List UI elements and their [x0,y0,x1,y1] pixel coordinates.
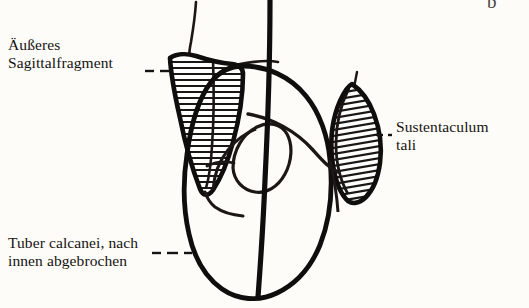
label-line-2: tali [396,136,416,153]
figure-part-letter: b [487,0,497,13]
label-line-1: Sustentaculum [396,118,489,135]
label-line-1: Äußeres [8,36,60,53]
label-sustentaculum-tali: Sustentaculum tali [396,118,489,155]
posterior-facet-line [248,114,338,172]
label-line-2: innen abgebrochen [8,252,127,269]
articular-surface-curve [233,124,291,192]
label-tuber-calcanei: Tuber calcanei, nach innen abgebrochen [8,234,138,271]
fixation-rod [258,0,270,297]
label-outer-sagittal-fragment: Äußeres Sagittalfragment [8,36,113,73]
label-line-1: Tuber calcanei, nach [8,234,138,251]
label-line-2: Sagittalfragment [8,54,113,71]
